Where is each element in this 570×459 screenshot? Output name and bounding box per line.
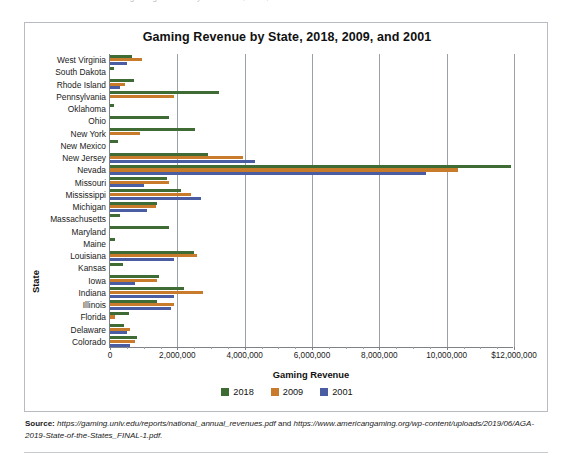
x-tick-minor — [396, 347, 397, 349]
legend-item-2018[interactable]: 2018 — [221, 387, 253, 397]
bar-group: Iowa — [110, 275, 513, 287]
bar-group: Michigan — [110, 201, 513, 213]
y-tick-label: Michigan — [72, 201, 106, 213]
bar-2018 — [110, 140, 118, 143]
y-tick-label: Rhode Island — [57, 79, 106, 91]
bar-2018 — [110, 116, 169, 119]
bar-group: Delaware — [110, 324, 513, 336]
x-tick-minor — [144, 347, 145, 349]
y-tick-label: Kansas — [78, 262, 106, 274]
y-tick-label: Colorado — [72, 336, 106, 348]
x-tick-minor — [161, 347, 162, 349]
bar-2001 — [110, 258, 174, 261]
x-tick-major — [110, 347, 111, 350]
y-tick-label: Massachusetts — [50, 213, 106, 225]
x-tick-label: 2,000,000 — [159, 351, 195, 360]
bar-group: Louisiana — [110, 250, 513, 262]
bar-group: Maryland — [110, 226, 513, 238]
legend-swatch-icon — [271, 388, 279, 396]
bar-group: New York — [110, 128, 513, 140]
y-axis-title-wrapper: State — [33, 143, 47, 203]
y-tick-label: Iowa — [88, 275, 106, 287]
cut-off-caption-text: — ··· gaming revenue by state 2018, 2009… — [108, 0, 317, 2]
x-tick-minor — [329, 347, 330, 349]
x-tick-minor — [211, 347, 212, 349]
x-tick-label: 0 — [108, 351, 113, 360]
bar-group: Kansas — [110, 262, 513, 274]
bar-2001 — [110, 307, 171, 310]
cut-off-caption-remnant: — ··· gaming revenue by state 2018, 2009… — [0, 0, 570, 14]
legend-swatch-icon — [320, 388, 328, 396]
bar-2001 — [110, 282, 135, 285]
bar-2018 — [110, 238, 115, 241]
y-tick-label: Delaware — [71, 324, 106, 336]
legend-label: 2018 — [233, 387, 253, 397]
y-tick-label: West Virginia — [57, 54, 106, 66]
bar-group: Ohio — [110, 115, 513, 127]
bar-2009 — [110, 132, 140, 135]
y-tick-label: Indiana — [79, 287, 106, 299]
bar-series-container: West VirginiaSouth DakotaRhode IslandPen… — [110, 54, 513, 347]
x-tick-minor — [228, 347, 229, 349]
bar-group: Missouri — [110, 177, 513, 189]
x-tick-minor — [194, 347, 195, 349]
source-label: Source: — [25, 419, 55, 428]
source-conjunction: and — [276, 419, 294, 428]
x-tick-major — [379, 347, 380, 350]
y-tick-label: South Dakota — [55, 66, 106, 78]
bar-2009 — [110, 315, 115, 318]
y-tick-label: Missouri — [75, 177, 106, 189]
bar-2001 — [110, 184, 144, 187]
x-tick-major — [514, 347, 515, 350]
legend-item-2009[interactable]: 2009 — [271, 387, 303, 397]
legend-label: 2001 — [332, 387, 352, 397]
bar-group: New Jersey — [110, 152, 513, 164]
bar-group: Illinois — [110, 299, 513, 311]
bar-2001 — [110, 86, 120, 89]
bar-group: Nevada — [110, 164, 513, 176]
x-tick-label: 8,000,000 — [361, 351, 397, 360]
y-tick-label: New Jersey — [62, 152, 106, 164]
x-tick-minor — [464, 347, 465, 349]
bar-group: New Mexico — [110, 140, 513, 152]
x-tick-label: 6,000,000 — [294, 351, 330, 360]
x-tick-minor — [295, 347, 296, 349]
bar-group: Maine — [110, 238, 513, 250]
x-tick-label: 10,000,000 — [426, 351, 467, 360]
x-tick-minor — [127, 347, 128, 349]
source-url-1: https://gaming.unlv.edu/reports/national… — [57, 419, 276, 428]
bar-2001 — [110, 172, 426, 175]
bar-group: Oklahoma — [110, 103, 513, 115]
x-tick-major — [312, 347, 313, 350]
source-note: Source: https://gaming.unlv.edu/reports/… — [25, 418, 549, 441]
y-tick-label: Mississippi — [66, 189, 107, 201]
bar-2001 — [110, 160, 255, 163]
x-tick-major — [177, 347, 178, 350]
bar-2001 — [110, 331, 127, 334]
x-tick-label: $12,000,000 — [491, 351, 537, 360]
legend-item-2001[interactable]: 2001 — [320, 387, 352, 397]
y-tick-label: Maryland — [72, 226, 106, 238]
legend-swatch-icon — [221, 388, 229, 396]
bar-group: South Dakota — [110, 66, 513, 78]
gridline — [514, 54, 515, 347]
x-tick-minor — [363, 347, 364, 349]
x-tick-major — [447, 347, 448, 350]
chart-legend: 201820092001 — [25, 387, 549, 397]
bar-group: Rhode Island — [110, 79, 513, 91]
x-tick-minor — [480, 347, 481, 349]
chart-title: Gaming Revenue by State, 2018, 2009, and… — [25, 30, 549, 44]
bar-2009 — [110, 95, 174, 98]
y-tick-label: Nevada — [77, 164, 106, 176]
y-tick-label: Oklahoma — [68, 103, 106, 115]
bar-2001 — [110, 209, 147, 212]
x-tick-minor — [278, 347, 279, 349]
bar-group: Massachusetts — [110, 213, 513, 225]
y-tick-label: Louisiana — [70, 250, 106, 262]
bar-group: Florida — [110, 311, 513, 323]
bar-2018 — [110, 214, 120, 217]
x-tick-minor — [262, 347, 263, 349]
bar-group: Indiana — [110, 287, 513, 299]
y-tick-label: Pennsylvania — [56, 91, 106, 103]
bar-2001 — [110, 197, 201, 200]
